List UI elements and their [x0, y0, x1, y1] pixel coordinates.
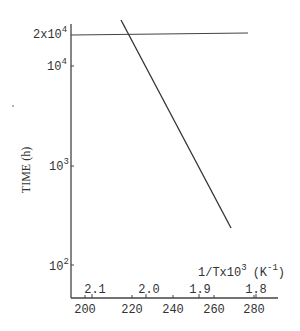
secondary-tick-label-2.1: 2.1 — [84, 283, 106, 297]
y-tick-label-10-2: 102 — [49, 257, 69, 274]
y-tick-label-10-4: 104 — [47, 57, 67, 74]
y-tick-label-2x10-4: 2x104 — [33, 25, 67, 42]
x-tick-label-240: 240 — [162, 303, 184, 317]
x-tick-label-220: 220 — [121, 303, 143, 317]
secondary-axis-title: 1/Tx103(K-1) — [198, 263, 285, 280]
x-tick-label-200: 200 — [74, 303, 96, 317]
x-tick-label-260: 260 — [203, 303, 225, 317]
chart: 2x104 104 103 102 TIME (h) 200 220 240 2… — [0, 0, 300, 331]
secondary-tick-label-1.8: 1.8 — [245, 283, 267, 297]
y-axis-title: TIME (h) — [19, 147, 33, 193]
series-time-vs-temperature — [121, 20, 231, 228]
series-horizontal-reference — [71, 33, 248, 35]
secondary-tick-label-1.9: 1.9 — [189, 283, 211, 297]
y-tick-label-10-3: 103 — [49, 157, 69, 174]
x-tick-label-280: 280 — [243, 303, 265, 317]
secondary-tick-label-2.0: 2.0 — [138, 283, 160, 297]
